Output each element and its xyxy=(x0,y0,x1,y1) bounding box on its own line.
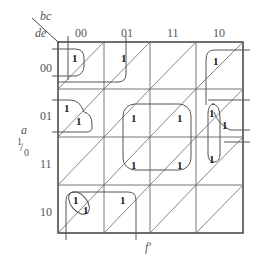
side-var-slash: / xyxy=(20,141,23,153)
side-var-lower: 0 xyxy=(24,147,29,159)
cell-one-r0c3: 1 xyxy=(213,56,219,67)
cell-one-r1c3-lower: 1 xyxy=(222,120,228,131)
cell-one-r0c0: 1 xyxy=(72,53,78,64)
row-header-00: 00 xyxy=(40,62,52,74)
cell-one-r1c0-upper: 1 xyxy=(64,103,70,114)
cell-one-r3c1: 1 xyxy=(120,195,126,206)
cell-one-r2c1-quad: 1 xyxy=(131,160,137,171)
col-header-01: 01 xyxy=(121,27,133,39)
bottom-label: f′ xyxy=(145,241,151,253)
cell-one-r3c0-upper: 1 xyxy=(73,195,79,206)
cell-one-r0c1: 1 xyxy=(121,53,127,64)
cell-one-r1c3-upper: 1 xyxy=(209,108,215,119)
cell-one-r2c3: 1 xyxy=(209,154,215,165)
row-header-10: 10 xyxy=(40,206,52,218)
cell-one-r1c1-quad: 1 xyxy=(131,113,137,124)
row-header-11: 11 xyxy=(40,158,52,170)
cell-one-r3c0-lower: 1 xyxy=(83,205,89,216)
cell-one-r1c0-lower: 1 xyxy=(76,116,82,127)
cell-one-r2c2-quad: 1 xyxy=(177,160,183,171)
row-vars-label: de xyxy=(35,27,46,39)
side-var-name: a xyxy=(21,124,27,136)
col-header-11: 11 xyxy=(167,27,179,39)
col-header-10: 10 xyxy=(213,27,225,39)
cell-one-r1c2-quad: 1 xyxy=(177,113,183,124)
col-vars-label: bc xyxy=(40,10,51,22)
group-loops xyxy=(52,36,250,240)
col-header-00: 00 xyxy=(75,27,87,39)
row-header-01: 01 xyxy=(40,110,52,122)
